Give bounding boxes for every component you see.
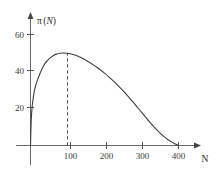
y-tick-label-40: 40	[15, 66, 25, 76]
y-axis-label-close-paren: )	[53, 16, 56, 27]
y-axis-arrow-icon	[28, 12, 34, 19]
chart-svg: 60 40 20 100 200 300 400 π(N) N	[0, 0, 222, 181]
x-axis-label: N	[202, 154, 209, 164]
y-axis-label: π(N)	[37, 16, 56, 27]
y-axis-label-pi: π	[37, 16, 42, 26]
y-tick-label-60: 60	[15, 30, 25, 40]
profit-curve	[31, 53, 179, 146]
y-tick-label-20: 20	[15, 103, 25, 113]
x-axis-arrow-icon	[194, 143, 201, 149]
x-tick-label-300: 300	[136, 151, 150, 161]
x-tick-label-100: 100	[64, 151, 78, 161]
chart-figure: 60 40 20 100 200 300 400 π(N) N	[0, 0, 222, 181]
x-tick-label-400: 400	[172, 151, 186, 161]
x-tick-label-200: 200	[100, 151, 114, 161]
